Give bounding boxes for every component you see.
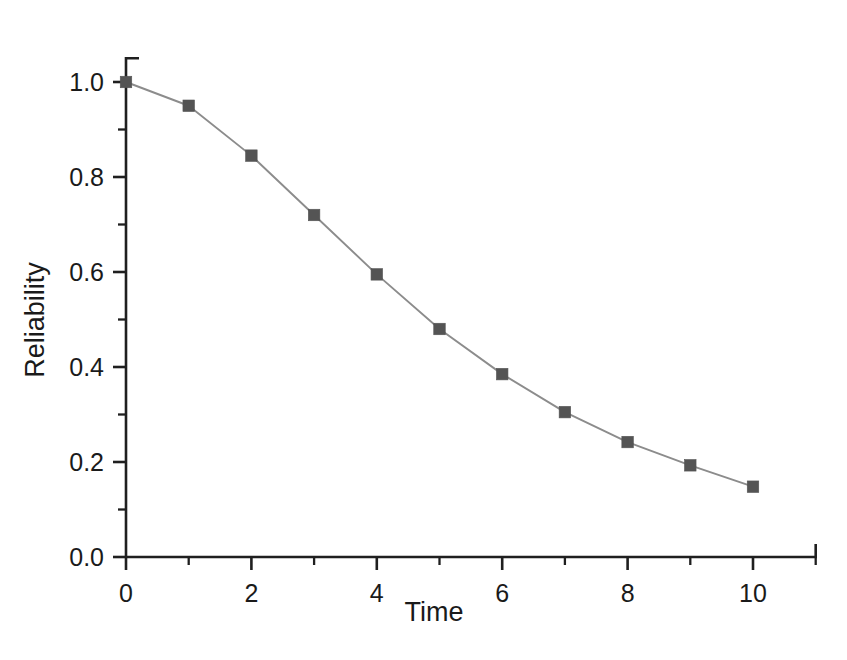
data-point-marker <box>371 269 383 281</box>
y-axis-title: Reliability <box>20 262 50 378</box>
x-tick-label: 8 <box>621 579 635 607</box>
data-point-marker <box>747 481 759 493</box>
y-tick-label: 0.0 <box>69 543 104 571</box>
y-tick-label: 0.2 <box>69 448 104 476</box>
y-tick-label: 1.0 <box>69 68 104 96</box>
x-tick-label: 4 <box>370 579 384 607</box>
data-point-marker <box>496 368 508 380</box>
data-point-marker <box>434 323 446 335</box>
x-tick-label: 10 <box>739 579 767 607</box>
y-tick-label: 0.8 <box>69 163 104 191</box>
data-point-marker <box>308 209 320 221</box>
y-tick-label: 0.4 <box>69 353 104 381</box>
data-point-marker <box>183 100 195 112</box>
chart-figure: 0246810 0.00.20.40.60.81.0 Time Reliabil… <box>0 0 847 660</box>
reliability-line-chart: 0246810 0.00.20.40.60.81.0 Time Reliabil… <box>0 0 847 660</box>
data-point-marker <box>246 150 258 162</box>
x-tick-label: 0 <box>119 579 133 607</box>
data-point-marker <box>559 406 571 418</box>
data-point-marker <box>685 460 697 472</box>
data-point-marker <box>622 436 634 448</box>
y-tick-label: 0.6 <box>69 258 104 286</box>
x-tick-label: 6 <box>495 579 509 607</box>
x-tick-label: 2 <box>244 579 258 607</box>
x-axis-title: Time <box>405 597 464 627</box>
data-point-marker <box>120 76 132 88</box>
